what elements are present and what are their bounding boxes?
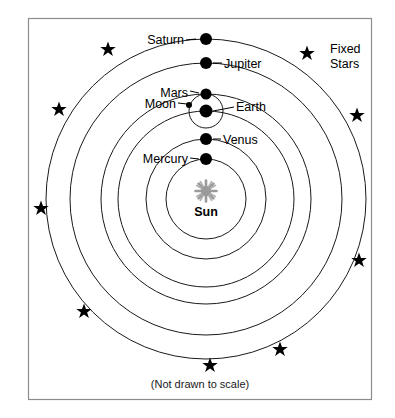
figure-caption: (Not drawn to scale) — [151, 378, 249, 390]
fixed-stars-label: Fixed Stars — [330, 42, 361, 71]
solar-system-diagram: Sun Saturn Jupiter Mars — [0, 0, 395, 418]
body-mars — [201, 89, 212, 100]
label-mercury: Mercury — [143, 152, 189, 166]
solar-system-figure: Sun Saturn Jupiter Mars — [0, 0, 395, 418]
label-jupiter: Jupiter — [224, 57, 262, 71]
body-venus — [200, 133, 212, 145]
fixed-stars-line-1: Fixed — [330, 42, 361, 56]
label-venus: Venus — [223, 133, 258, 147]
fixed-stars-line-2: Stars — [330, 57, 359, 71]
label-earth: Earth — [236, 100, 266, 114]
sun-icon — [196, 181, 217, 202]
label-sun: Sun — [194, 205, 218, 219]
body-earth — [200, 105, 213, 118]
body-saturn — [200, 33, 212, 45]
body-moon — [186, 102, 192, 108]
body-jupiter — [200, 57, 212, 69]
body-mercury — [200, 153, 212, 165]
label-moon: Moon — [145, 97, 176, 111]
label-saturn: Saturn — [147, 33, 184, 47]
